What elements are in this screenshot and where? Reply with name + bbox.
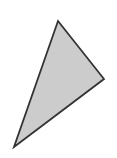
triangle-diagram [0,0,117,158]
figure-canvas [0,0,117,158]
